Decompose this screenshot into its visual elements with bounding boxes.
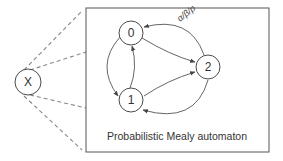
node-label: 2	[205, 60, 212, 74]
diagram-canvas: α/β/p X 0 1 2 Probabilistic Mealy automa…	[0, 0, 283, 161]
state-node-2: 2	[196, 55, 220, 79]
node-label: X	[24, 75, 32, 89]
box-caption: Probabilistic Mealy automaton	[107, 130, 247, 142]
state-node-1: 1	[119, 88, 143, 112]
source-node-x: X	[15, 69, 41, 95]
state-node-0: 0	[119, 21, 143, 45]
node-label: 1	[128, 93, 135, 107]
node-label: 0	[128, 26, 135, 40]
